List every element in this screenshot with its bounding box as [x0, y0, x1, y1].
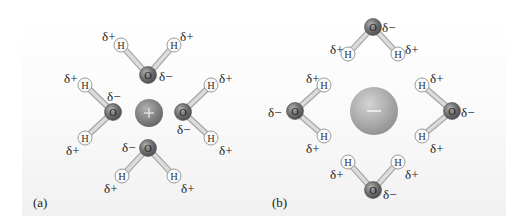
svg-text:H: H	[394, 49, 402, 60]
partial-positive-label: δ+	[430, 141, 443, 157]
hydrogen-atom: H	[78, 131, 92, 145]
svg-text:H: H	[170, 40, 178, 51]
oxygen-atom: O	[365, 182, 382, 199]
partial-positive-label: δ+	[102, 29, 115, 45]
svg-text:O: O	[144, 70, 152, 81]
partial-negative-label: δ−	[107, 89, 120, 105]
partial-negative-label: δ−	[122, 140, 135, 156]
partial-negative-label: δ−	[382, 20, 395, 36]
oxygen-atom: O	[105, 104, 122, 121]
svg-text:H: H	[207, 133, 215, 144]
svg-text:O: O	[144, 143, 152, 154]
partial-negative-label: δ−	[383, 187, 396, 203]
partial-positive-label: δ+	[405, 167, 418, 183]
hydrogen-atom: H	[391, 155, 405, 169]
svg-text:H: H	[344, 49, 352, 60]
hydration-diagram: HHOHHOHHOHHOHHOHHOHHOHHO	[0, 0, 512, 222]
partial-positive-label: δ+	[430, 71, 443, 87]
oxygen-atom: O	[140, 67, 157, 84]
svg-text:O: O	[109, 107, 117, 118]
svg-text:H: H	[418, 80, 426, 91]
partial-positive-label: δ+	[306, 141, 319, 157]
svg-text:H: H	[344, 157, 352, 168]
partial-positive-label: δ+	[181, 181, 194, 197]
hydrogen-atom: H	[415, 129, 429, 143]
partial-positive-label: δ+	[405, 42, 418, 58]
oxygen-atom: O	[365, 19, 382, 36]
panel-label: (b)	[272, 195, 287, 211]
partial-positive-label: δ+	[330, 42, 343, 58]
hydrogen-atom: H	[204, 78, 218, 92]
partial-negative-label: δ−	[177, 122, 190, 138]
partial-positive-label: δ+	[219, 143, 232, 159]
svg-text:H: H	[418, 131, 426, 142]
partial-positive-label: δ+	[64, 71, 77, 87]
hydrogen-atom: H	[391, 47, 405, 61]
hydrogen-atom: H	[204, 131, 218, 145]
partial-positive-label: δ+	[180, 29, 193, 45]
partial-negative-label: δ−	[461, 105, 474, 121]
svg-text:H: H	[81, 133, 89, 144]
partial-positive-label: δ+	[66, 143, 79, 159]
svg-text:O: O	[291, 106, 299, 117]
partial-positive-label: δ+	[104, 181, 117, 197]
hydrogen-atom: H	[78, 78, 92, 92]
svg-text:H: H	[320, 131, 328, 142]
svg-text:H: H	[394, 157, 402, 168]
svg-text:H: H	[207, 80, 215, 91]
svg-text:O: O	[369, 185, 377, 196]
svg-text:H: H	[118, 171, 126, 182]
svg-text:O: O	[179, 107, 187, 118]
svg-text:O: O	[448, 106, 456, 117]
hydrogen-atom: H	[167, 169, 181, 183]
oxygen-atom: O	[140, 140, 157, 157]
svg-text:H: H	[320, 80, 328, 91]
oxygen-atom: O	[444, 103, 461, 120]
partial-positive-label: δ+	[330, 167, 343, 183]
hydrogen-atom: H	[415, 78, 429, 92]
partial-negative-label: δ−	[159, 69, 172, 85]
panel-label: (a)	[33, 195, 47, 211]
svg-text:H: H	[117, 40, 125, 51]
partial-negative-label: δ−	[268, 105, 281, 121]
hydrogen-atom: H	[114, 38, 128, 52]
oxygen-atom: O	[287, 103, 304, 120]
svg-text:O: O	[369, 22, 377, 33]
cation-ion	[135, 99, 163, 127]
oxygen-atom: O	[175, 104, 192, 121]
svg-text:H: H	[170, 171, 178, 182]
svg-text:H: H	[81, 80, 89, 91]
partial-positive-label: δ+	[306, 71, 319, 87]
hydrogen-atom: H	[167, 38, 181, 52]
anion-ion	[350, 87, 398, 135]
partial-positive-label: δ+	[219, 71, 232, 87]
